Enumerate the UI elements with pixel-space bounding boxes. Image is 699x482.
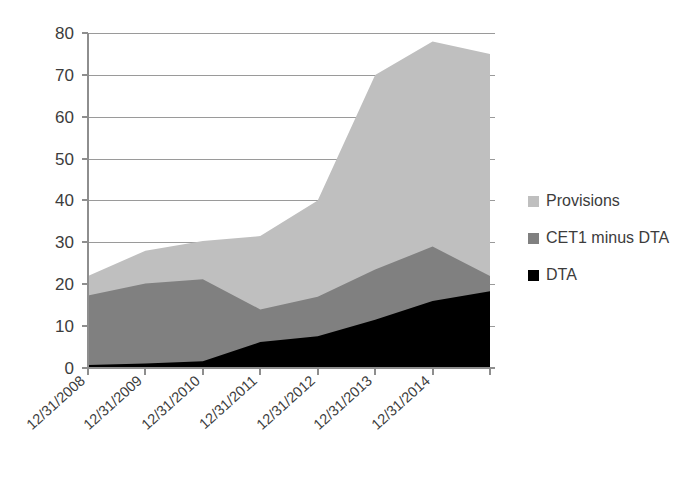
x-axis-label: 12/31/2011 [196,372,260,432]
legend-item-dta: DTA [528,266,577,283]
legend-label-cet1-minus-dta: CET1 minus DTA [546,229,670,246]
x-axis-label: 12/31/2012 [253,372,318,432]
y-axis-label: 0 [65,359,74,378]
legend-item-cet1-minus-dta: CET1 minus DTA [528,229,670,246]
x-axis-label: 12/31/2013 [310,372,375,432]
y-axis-label: 80 [55,24,74,43]
y-axis-label: 50 [55,150,74,169]
y-axis-label: 10 [55,317,74,336]
y-axis-label: 60 [55,108,74,127]
x-axis-labels: 12/31/2008 12/31/2009 12/31/2010 12/31/2… [23,372,433,432]
area-series-group [88,41,490,368]
y-axis-label: 70 [55,66,74,85]
legend-swatch-dta [528,270,539,281]
x-tickmarks [88,368,490,375]
x-axis-label: 12/31/2010 [138,372,203,432]
x-axis-label: 12/31/2014 [368,372,433,432]
chart-legend: Provisions CET1 minus DTA DTA [528,192,670,283]
legend-label-dta: DTA [546,266,577,283]
legend-label-provisions: Provisions [546,192,620,209]
y-axis-label: 40 [55,191,74,210]
legend-swatch-cet1-minus-dta [528,233,539,244]
chart-canvas: 80 70 60 50 40 30 20 10 0 12/31/2008 12/… [0,0,699,482]
x-axis-label: 12/31/2008 [23,372,88,432]
y-axis-label: 30 [55,233,74,252]
stacked-area-chart: 80 70 60 50 40 30 20 10 0 12/31/2008 12/… [0,0,699,482]
y-axis-labels: 80 70 60 50 40 30 20 10 0 [55,24,74,378]
y-tickmarks [82,33,88,368]
legend-item-provisions: Provisions [528,192,620,209]
legend-swatch-provisions [528,196,539,207]
y-axis-label: 20 [55,275,74,294]
x-axis-label: 12/31/2009 [80,372,145,432]
